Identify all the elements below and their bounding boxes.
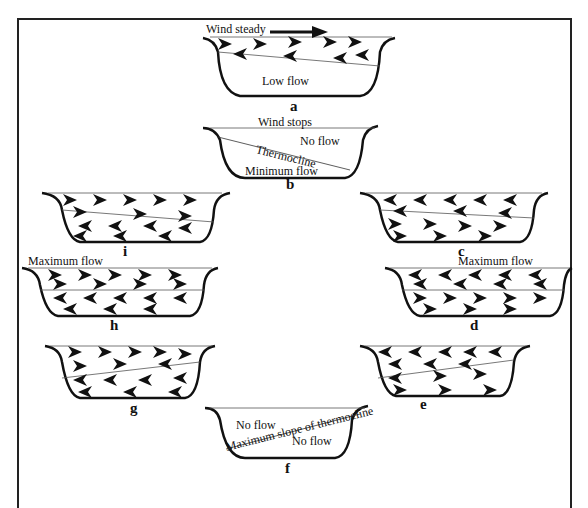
label-low-flow: Low flow [262,74,309,89]
label-maximum-flow-h: Maximum flow [28,254,103,269]
panel-letter-i: i [123,243,127,260]
panel-c-basin [360,193,548,242]
panel-letter-d: d [470,317,478,334]
label-no-flow-b: No flow [300,134,340,149]
panel-letter-g: g [130,400,138,417]
label-wind-stops: Wind stops [258,115,312,130]
wind-arrow-icon [270,26,328,38]
panel-letter-b: b [286,176,294,193]
panel-letter-f: f [285,460,290,477]
panel-i-basin [42,193,230,242]
panel-d-basin [385,268,572,316]
label-wind-steady: Wind steady [206,22,266,37]
panel-letter-a: a [290,98,298,115]
label-no-flow-f-right: No flow [292,434,332,449]
panel-letter-h: h [110,317,118,334]
panel-letter-e: e [420,396,427,413]
label-maximum-flow-d: Maximum flow [458,254,533,269]
panel-h-basin [22,268,218,316]
panel-e-basin [360,346,530,396]
label-minimum-flow: Minimum flow [245,164,318,179]
panel-g-basin [45,346,215,398]
